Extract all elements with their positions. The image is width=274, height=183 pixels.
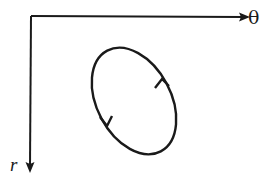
- orbit-arrow-down-icon: [100, 116, 112, 126]
- theta-axis: [31, 13, 250, 22]
- closed-orbit: [75, 33, 194, 168]
- phase-diagram: θ r: [0, 0, 274, 183]
- theta-axis-label: θ: [248, 6, 259, 28]
- r-axis-label: r: [10, 154, 17, 176]
- r-axis: [26, 16, 35, 173]
- diagram-canvas: [0, 0, 274, 183]
